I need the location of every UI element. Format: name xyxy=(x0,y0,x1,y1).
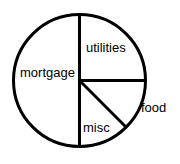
pie-slice-label-misc: misc xyxy=(83,121,110,134)
pie-chart-graphic xyxy=(0,0,180,164)
pie-chart: mortgage utilities food misc xyxy=(0,0,180,164)
pie-slice-label-utilities: utilities xyxy=(86,41,126,54)
pie-slice-label-food: food xyxy=(141,101,166,114)
pie-slice-label-mortgage: mortgage xyxy=(20,66,75,79)
